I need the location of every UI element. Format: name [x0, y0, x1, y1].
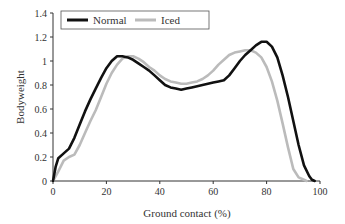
x-axis-label: Ground contact (%): [143, 207, 231, 220]
series-line-iced: [53, 50, 307, 181]
y-axis-label: Bodyweight: [14, 70, 26, 124]
series-layer: [53, 42, 315, 181]
bodyweight-line-chart: 00.20.40.60.811.21.4 020406080100 Bodywe…: [0, 0, 345, 224]
y-tick-label: 0: [42, 176, 47, 187]
y-tick-label: 1: [42, 56, 47, 67]
legend-label-iced: Iced: [161, 14, 180, 26]
legend: Normal Iced: [61, 11, 209, 29]
y-tick-label: 0.4: [35, 128, 48, 139]
x-tick-label: 0: [51, 186, 56, 197]
y-tick-label: 0.6: [35, 104, 48, 115]
x-tick-label: 80: [262, 186, 272, 197]
x-tick-label: 20: [101, 186, 111, 197]
y-tick-label: 1.2: [35, 32, 48, 43]
y-tick-label: 0.2: [35, 152, 48, 163]
y-tick-label: 0.8: [35, 80, 48, 91]
x-axis: 020406080100: [51, 181, 328, 197]
legend-label-normal: Normal: [93, 14, 127, 26]
y-axis: 00.20.40.60.811.21.4: [35, 8, 54, 187]
y-tick-label: 1.4: [35, 8, 48, 19]
x-tick-label: 100: [313, 186, 328, 197]
series-line-normal: [53, 42, 315, 181]
x-tick-label: 40: [155, 186, 165, 197]
x-tick-label: 60: [208, 186, 218, 197]
